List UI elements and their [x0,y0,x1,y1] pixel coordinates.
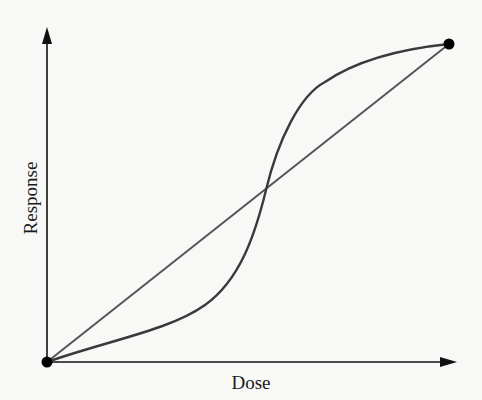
origin-dot-icon [42,357,53,368]
diagram-svg: Dose Response [0,0,482,400]
y-axis-label: Response [20,162,41,235]
dose-response-diagram: Dose Response [0,0,482,400]
endpoint-dot-icon [444,39,455,50]
linear-response-line [47,44,449,362]
x-axis-arrow-icon [440,357,457,367]
x-axis-label: Dose [231,372,270,393]
x-axis [47,357,457,367]
y-axis [42,27,52,362]
y-axis-arrow-icon [42,27,52,44]
